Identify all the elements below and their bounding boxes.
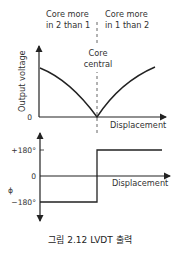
y-axis-label-voltage: Output voltage — [17, 50, 27, 112]
tick-minus-180: −180° — [11, 198, 36, 207]
region-right-label-1: Core more — [105, 9, 148, 19]
figure-caption: 그림 2.12 LVDT 출력 — [48, 234, 131, 245]
region-left-label-2: in 2 than 1 — [46, 20, 90, 30]
output-voltage-curve — [40, 67, 155, 117]
lvdt-output-diagram: Core more in 2 than 1 Core more in 1 tha… — [0, 0, 180, 262]
region-right-label-2: in 1 than 2 — [105, 20, 149, 30]
x-axis-label-top: Displacement — [110, 120, 167, 130]
x-axis-label-bottom: Displacement — [112, 178, 169, 188]
top-plot: Core more in 2 than 1 Core more in 1 tha… — [17, 9, 167, 130]
tick-plus-180: +180° — [11, 146, 36, 155]
bottom-plot: +180° 0 −180° ϕ Displacement — [8, 133, 170, 221]
tick-zero: 0 — [31, 172, 36, 181]
y-axis-label-phi: ϕ — [8, 186, 13, 195]
center-label-1: Core — [89, 48, 108, 58]
center-label-2: central — [84, 59, 113, 69]
origin-tick: 0 — [27, 113, 32, 122]
region-left-label-1: Core more — [46, 9, 89, 19]
